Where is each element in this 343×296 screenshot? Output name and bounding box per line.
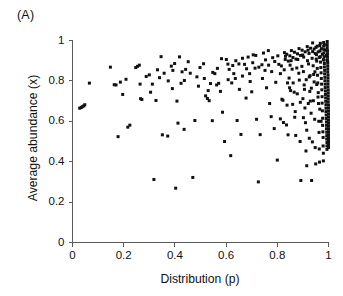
data-point — [320, 83, 323, 86]
data-point — [327, 101, 330, 104]
x-tick-label: 0.6 — [209, 250, 243, 262]
data-point — [88, 82, 91, 85]
data-point — [219, 90, 222, 93]
data-point — [323, 62, 326, 65]
data-point — [309, 74, 312, 77]
data-point — [237, 62, 240, 65]
data-point — [303, 106, 306, 109]
data-point — [297, 72, 300, 75]
data-point — [117, 135, 120, 138]
data-point — [322, 58, 325, 61]
data-point — [176, 122, 179, 125]
data-point — [173, 62, 176, 65]
data-point — [323, 43, 326, 46]
data-point — [308, 90, 311, 93]
data-point — [175, 100, 178, 103]
data-point — [274, 81, 277, 84]
x-tick-label: 0 — [56, 250, 90, 262]
data-point — [262, 52, 265, 55]
data-point — [324, 96, 327, 99]
data-point — [294, 110, 297, 113]
data-point — [308, 52, 311, 55]
data-point — [198, 66, 201, 69]
data-point — [299, 101, 302, 104]
data-point — [294, 134, 297, 137]
y-tick-label: 0 — [35, 237, 65, 249]
data-point — [288, 77, 291, 80]
data-point — [152, 178, 155, 181]
data-point — [251, 61, 254, 64]
data-point — [273, 60, 276, 63]
data-point — [313, 70, 316, 73]
data-point — [209, 82, 212, 85]
data-point — [301, 49, 304, 52]
data-point — [327, 88, 330, 91]
data-point — [158, 76, 161, 79]
data-point — [321, 53, 324, 56]
data-point — [314, 162, 317, 165]
data-point — [308, 137, 311, 140]
data-point — [193, 119, 196, 122]
data-point — [279, 117, 282, 120]
data-point — [229, 154, 232, 157]
data-point — [327, 110, 330, 113]
y-tick-label: 1 — [35, 35, 65, 47]
data-point — [324, 100, 327, 103]
data-point — [326, 64, 329, 67]
data-point — [252, 53, 255, 56]
data-point — [187, 60, 190, 63]
data-point — [318, 147, 321, 150]
y-tick-label: 0.2 — [35, 196, 65, 208]
data-point — [174, 187, 177, 190]
data-point — [290, 59, 293, 62]
data-point — [305, 129, 308, 132]
data-point — [288, 86, 291, 89]
data-point — [327, 122, 330, 125]
data-point — [271, 56, 274, 59]
data-point — [283, 51, 286, 54]
data-point — [283, 68, 286, 71]
data-point — [284, 58, 287, 61]
data-point — [249, 80, 252, 83]
data-point — [322, 152, 325, 155]
data-point — [326, 85, 329, 88]
data-point — [307, 62, 310, 65]
data-point — [311, 50, 314, 53]
data-point — [138, 64, 141, 67]
data-point — [327, 146, 330, 149]
data-point — [261, 77, 264, 80]
data-point — [289, 89, 292, 92]
data-point — [259, 133, 262, 136]
data-point — [217, 82, 220, 85]
data-point — [327, 131, 330, 134]
data-point — [305, 78, 308, 81]
data-point — [322, 159, 325, 162]
data-point — [191, 176, 194, 179]
data-point — [225, 58, 228, 61]
data-point — [286, 81, 289, 84]
data-point — [316, 67, 319, 70]
data-point — [171, 87, 174, 90]
data-point — [302, 56, 305, 59]
data-point — [322, 136, 325, 139]
data-point — [270, 115, 273, 118]
data-point — [300, 65, 303, 68]
y-tick-label: 0.4 — [35, 156, 65, 168]
data-point — [320, 47, 323, 50]
data-point — [319, 66, 322, 69]
data-point — [257, 66, 260, 69]
data-point — [287, 133, 290, 136]
data-point — [119, 81, 122, 84]
data-point — [326, 76, 329, 79]
x-tick-label: 0.4 — [158, 250, 192, 262]
data-point — [293, 51, 296, 54]
data-point — [148, 73, 151, 76]
data-point — [327, 113, 330, 116]
data-point — [319, 61, 322, 64]
data-point — [245, 97, 248, 100]
data-point — [320, 120, 323, 123]
data-point — [311, 140, 314, 143]
data-point — [310, 179, 313, 182]
data-point — [327, 104, 330, 107]
data-point — [298, 47, 301, 50]
